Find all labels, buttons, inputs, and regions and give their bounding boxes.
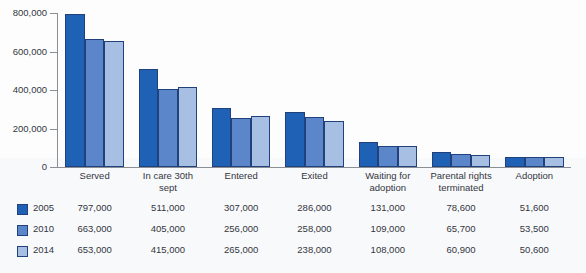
x-axis-label-line: Parental rights — [424, 170, 497, 182]
x-axis-baseline — [57, 167, 571, 168]
x-axis-label-line: sept — [131, 182, 204, 194]
bar-2005-parental-rights-terminated[interactable] — [432, 152, 452, 167]
bar-group — [432, 13, 491, 167]
table-cell: 415,000 — [131, 244, 204, 255]
bar-group — [139, 13, 198, 167]
bar-2010-adoption[interactable] — [525, 157, 545, 167]
x-axis-label-line: Exited — [278, 170, 351, 182]
bar-group — [359, 13, 418, 167]
table-cell: 50,600 — [498, 244, 571, 255]
y-axis-tick-label: 200,000 — [0, 123, 47, 134]
bar-2010-exited[interactable] — [305, 117, 325, 167]
y-axis-tick-label: 0 — [0, 161, 47, 172]
bar-2014-parental-rights-terminated[interactable] — [471, 155, 491, 167]
bar-2005-entered[interactable] — [212, 108, 232, 167]
y-axis-tick — [50, 90, 57, 91]
legend-swatch-2014[interactable] — [17, 246, 28, 257]
x-axis-label: In care 30thsept — [131, 170, 204, 193]
table-cell: 131,000 — [351, 202, 424, 213]
x-axis-category-labels: ServedIn care 30thseptEnteredExitedWaiti… — [58, 170, 571, 200]
y-axis-tick — [50, 52, 57, 53]
bar-2005-served[interactable] — [65, 14, 85, 167]
bar-2005-waiting-for-adoption[interactable] — [359, 142, 379, 167]
bar-2014-exited[interactable] — [324, 121, 344, 167]
bar-group — [505, 13, 564, 167]
x-axis-label-line: Waiting for — [351, 170, 424, 182]
y-axis-tick — [50, 129, 57, 130]
y-axis-tick — [50, 167, 57, 168]
x-axis-label: Entered — [205, 170, 278, 182]
x-axis-label-line: adoption — [351, 182, 424, 194]
x-axis-label-line: terminated — [424, 182, 497, 194]
bar-2010-in-care-30th-sept[interactable] — [158, 89, 178, 167]
x-axis-label-line: Served — [58, 170, 131, 182]
x-axis-label-line: In care 30th — [131, 170, 204, 182]
table-cell: 663,000 — [58, 223, 131, 234]
y-axis-tick — [50, 13, 57, 14]
table-cell: 258,000 — [278, 223, 351, 234]
bar-2010-served[interactable] — [85, 39, 105, 167]
bars-container — [58, 13, 571, 167]
bar-2005-adoption[interactable] — [505, 157, 525, 167]
bar-2010-entered[interactable] — [231, 118, 251, 167]
y-axis-tick-label: 600,000 — [0, 46, 47, 57]
table-cell: 286,000 — [278, 202, 351, 213]
table-cell: 797,000 — [58, 202, 131, 213]
table-cell: 60,900 — [424, 244, 497, 255]
bar-group — [212, 13, 271, 167]
table-cell: 53,500 — [498, 223, 571, 234]
table-cell: 65,700 — [424, 223, 497, 234]
bar-2014-waiting-for-adoption[interactable] — [398, 146, 418, 167]
x-axis-label-line: Entered — [205, 170, 278, 182]
x-axis-label: Waiting foradoption — [351, 170, 424, 193]
table-cell: 109,000 — [351, 223, 424, 234]
table-cell: 238,000 — [278, 244, 351, 255]
x-axis-label: Served — [58, 170, 131, 182]
table-row: 2005797,000511,000307,000286,000131,0007… — [0, 200, 586, 221]
x-axis-label: Parental rightsterminated — [424, 170, 497, 193]
table-cell: 108,000 — [351, 244, 424, 255]
chart-plot-region: 800,000600,000400,000200,0000 — [0, 0, 586, 175]
table-cell: 265,000 — [205, 244, 278, 255]
table-cell: 653,000 — [58, 244, 131, 255]
table-cell: 51,600 — [498, 202, 571, 213]
legend-swatch-2005[interactable] — [17, 204, 28, 215]
bar-2010-waiting-for-adoption[interactable] — [378, 146, 398, 167]
bar-group — [285, 13, 344, 167]
bar-2014-entered[interactable] — [251, 116, 271, 167]
grouped-bar-chart-figure: 800,000600,000400,000200,0000 ServedIn c… — [0, 0, 586, 273]
bar-2005-exited[interactable] — [285, 112, 305, 167]
x-axis-label: Exited — [278, 170, 351, 182]
x-axis-label: Adoption — [498, 170, 571, 182]
bar-2014-served[interactable] — [104, 41, 124, 167]
y-axis-tick-label: 800,000 — [0, 7, 47, 18]
bar-2005-in-care-30th-sept[interactable] — [139, 69, 159, 167]
table-row: 2010663,000405,000256,000258,000109,0006… — [0, 221, 586, 242]
table-cell: 78,600 — [424, 202, 497, 213]
table-row: 2014653,000415,000265,000238,000108,0006… — [0, 242, 586, 263]
table-cell: 511,000 — [131, 202, 204, 213]
bar-2014-in-care-30th-sept[interactable] — [178, 87, 198, 167]
table-cell: 307,000 — [205, 202, 278, 213]
x-axis-label-line: Adoption — [498, 170, 571, 182]
bar-2014-adoption[interactable] — [544, 157, 564, 167]
table-cell: 256,000 — [205, 223, 278, 234]
legend-swatch-2010[interactable] — [17, 225, 28, 236]
table-cell: 405,000 — [131, 223, 204, 234]
bar-group — [65, 13, 124, 167]
y-axis-tick-label: 400,000 — [0, 84, 47, 95]
bar-2010-parental-rights-terminated[interactable] — [451, 154, 471, 167]
legend-data-table: 2005797,000511,000307,000286,000131,0007… — [0, 200, 586, 273]
